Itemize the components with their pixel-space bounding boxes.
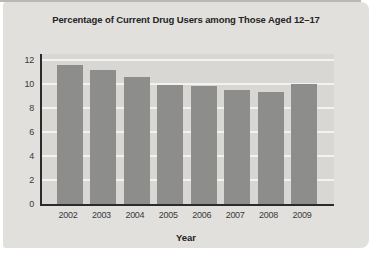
y-tick-label-8: 8 [6,103,34,113]
x-tick-label-2004: 2004 [122,210,148,220]
y-tick-label-12: 12 [6,55,34,65]
y-tick-label-10: 10 [6,79,34,89]
plot-area [40,54,334,206]
y-tick-label-0: 0 [6,199,34,209]
x-tick-label-2006: 2006 [189,210,215,220]
bar-2006 [191,86,217,204]
x-axis-title: Year [40,232,332,243]
x-tick-label-2008: 2008 [256,210,282,220]
bar-2003 [90,70,116,204]
bar-2009 [291,84,317,204]
x-tick-label-2009: 2009 [289,210,315,220]
bar-2005 [157,85,183,204]
x-tick-label-2007: 2007 [222,210,248,220]
y-tick-label-4: 4 [6,151,34,161]
x-tick-label-2002: 2002 [55,210,81,220]
chart-title: Percentage of Current Drug Users among T… [3,14,369,25]
bar-series [42,54,334,204]
y-tick-label-2: 2 [6,175,34,185]
bar-2008 [258,92,284,204]
x-tick-label-2005: 2005 [155,210,181,220]
x-axis-labels: 20022003200420052006200720082009 [40,210,332,220]
bar-2002 [57,65,83,204]
figure: Percentage of Current Drug Users among T… [0,0,378,261]
bar-2004 [124,77,150,204]
bar-2007 [224,90,250,204]
x-tick-label-2003: 2003 [88,210,114,220]
y-tick-label-6: 6 [6,127,34,137]
chart-panel: Percentage of Current Drug Users among T… [3,2,369,248]
y-axis-labels: 024681012 [6,54,36,204]
